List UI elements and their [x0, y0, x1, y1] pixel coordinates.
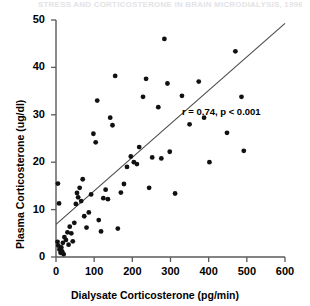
data-point [165, 81, 170, 86]
data-point [70, 239, 75, 244]
data-point [135, 162, 140, 167]
x-tick-label: 400 [194, 266, 224, 277]
data-point [225, 130, 230, 135]
data-point [125, 165, 130, 170]
data-point [113, 74, 118, 79]
x-tick-label: 500 [232, 266, 262, 277]
data-point [93, 140, 98, 145]
data-point [72, 220, 77, 225]
data-point [80, 177, 85, 182]
plot-canvas [0, 0, 310, 306]
data-point [69, 231, 74, 236]
data-point [144, 76, 149, 81]
data-point [196, 79, 201, 84]
data-point [173, 191, 178, 196]
data-point [61, 252, 66, 257]
y-tick-label: 40 [19, 61, 45, 72]
data-point [106, 197, 111, 202]
data-point [128, 154, 133, 159]
data-point [56, 181, 61, 186]
y-tick-label: 0 [19, 251, 45, 262]
data-point [110, 123, 115, 128]
data-point [207, 160, 212, 165]
data-point [239, 94, 244, 99]
x-tick-label: 300 [156, 266, 186, 277]
x-tick-label: 0 [41, 266, 71, 277]
data-point [75, 191, 80, 196]
x-tick-label: 200 [117, 266, 147, 277]
data-point [141, 94, 146, 99]
data-point [137, 145, 142, 150]
data-point [99, 229, 104, 234]
data-point [101, 196, 106, 201]
x-tick-label: 100 [79, 266, 109, 277]
data-point [103, 187, 108, 192]
data-point [91, 131, 96, 136]
data-point [89, 192, 94, 197]
data-point [167, 149, 172, 154]
data-point [84, 225, 89, 230]
data-point [162, 37, 167, 42]
x-axis-title: Dialysate Corticosterone (pg/min) [0, 289, 310, 301]
scatter-plot-figure: STRESS AND CORTICOSTERONE IN BRAIN MICRO… [0, 0, 310, 306]
data-point [79, 199, 84, 204]
data-point [67, 224, 72, 229]
data-point [118, 190, 123, 195]
data-point [122, 182, 127, 187]
data-point [96, 218, 101, 223]
data-point [233, 49, 238, 54]
data-point [108, 115, 113, 120]
data-point [64, 238, 69, 243]
data-point [82, 214, 87, 219]
data-point [76, 195, 81, 200]
data-point [86, 210, 91, 215]
data-point [115, 226, 120, 231]
data-point [77, 185, 82, 190]
data-point [95, 98, 100, 103]
data-point [150, 155, 155, 160]
data-point [241, 148, 246, 153]
data-point [187, 122, 192, 127]
data-point [57, 201, 62, 206]
data-point [156, 105, 161, 110]
data-point [147, 185, 152, 190]
correlation-annotation: r = 0.74, p < 0.001 [182, 106, 261, 117]
y-tick-label: 50 [19, 14, 45, 25]
data-point [159, 156, 164, 161]
x-tick-label: 600 [270, 266, 300, 277]
y-axis-title: Plasma Corticosterone (ug/dl) [14, 100, 26, 249]
data-point [73, 202, 78, 207]
data-point [180, 93, 185, 98]
data-point [66, 242, 71, 247]
